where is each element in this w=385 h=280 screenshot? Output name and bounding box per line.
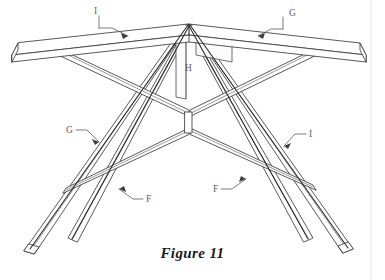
technical-drawing: I G G I H F F — [0, 0, 385, 280]
ref-label-top-left: I — [94, 6, 97, 16]
figure-caption: Figure 11 — [0, 245, 385, 262]
leader-middle-right — [284, 134, 306, 149]
center-stretcher-post — [185, 112, 192, 133]
ref-label-middle-right: I — [309, 129, 312, 139]
top-rail-board — [12, 24, 366, 62]
figure-page: I G G I H F F Figure 11 — [0, 0, 385, 280]
ref-label-center: H — [185, 63, 192, 73]
ref-label-bottom-right: F — [213, 184, 219, 194]
leg-left-front — [187, 26, 313, 242]
leader-bottom-left — [119, 186, 143, 199]
ref-label-bottom-left: F — [146, 194, 152, 204]
leader-bottom-right — [221, 176, 246, 189]
ref-label-middle-left: G — [66, 125, 73, 135]
ref-label-top-right: G — [289, 8, 296, 18]
leader-middle-left — [76, 130, 99, 145]
